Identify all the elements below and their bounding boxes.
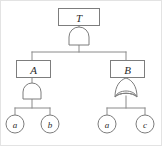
basic-event-label: a bbox=[105, 120, 110, 130]
and-gate-a-icon[interactable] bbox=[23, 83, 41, 99]
and-gate-top-icon[interactable] bbox=[69, 27, 89, 45]
node-top-event-t[interactable]: T bbox=[59, 9, 100, 26]
node-basic-event-c[interactable]: c bbox=[136, 115, 154, 133]
node-basic-event-a2[interactable]: a bbox=[98, 115, 116, 133]
basic-event-label: c bbox=[143, 120, 147, 130]
fault-tree-diagram: T A B a b a bbox=[0, 0, 162, 146]
basic-event-label: a bbox=[13, 120, 18, 130]
intermediate-b-label: B bbox=[124, 64, 131, 76]
node-basic-event-b[interactable]: b bbox=[41, 115, 59, 133]
top-event-label: T bbox=[76, 12, 83, 24]
basic-event-label: b bbox=[48, 120, 53, 130]
intermediate-a-label: A bbox=[29, 64, 37, 76]
node-basic-event-a1[interactable]: a bbox=[6, 115, 24, 133]
or-gate-b-icon[interactable] bbox=[115, 78, 137, 97]
node-intermediate-a[interactable]: A bbox=[17, 61, 51, 78]
node-intermediate-b[interactable]: B bbox=[111, 61, 145, 78]
